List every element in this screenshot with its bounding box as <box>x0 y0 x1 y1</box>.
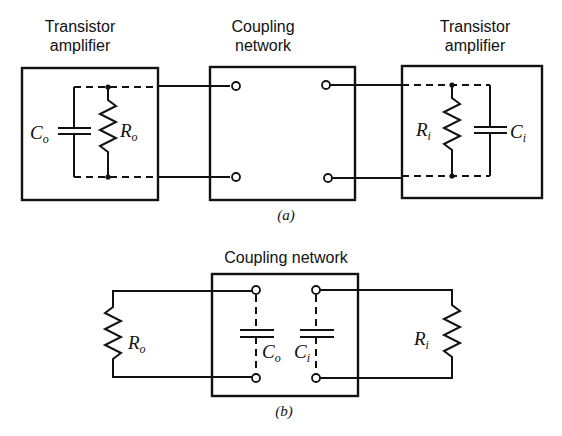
resistor-ro-label: Ro <box>119 120 138 144</box>
right-amp-title-line1: Transistor <box>440 18 511 35</box>
resistor-ro-label-b: Ro <box>127 332 146 356</box>
terminal <box>312 374 320 382</box>
coupling-title-line2: network <box>235 37 292 54</box>
coupling-title-line1: Coupling <box>231 18 294 35</box>
left-transistor-amplifier: Transistor amplifier Co Ro <box>22 18 158 200</box>
junction-dot <box>449 173 454 178</box>
caption-a: (a) <box>277 207 295 224</box>
capacitor-co-symbol <box>58 128 91 134</box>
junction-dot <box>105 174 110 179</box>
junction-dot <box>105 84 110 89</box>
capacitor-co-symbol-b <box>240 330 274 337</box>
figure-a: Transistor amplifier Co Ro Coupling netw… <box>22 18 542 224</box>
terminal <box>252 374 260 382</box>
terminal <box>252 286 260 294</box>
figure-b: Coupling network Ro Co Ci Ri (b) <box>105 249 460 420</box>
capacitor-ci-label-b: Ci <box>294 341 310 365</box>
terminal <box>322 81 330 89</box>
capacitor-ci-symbol <box>474 127 507 133</box>
caption-b: (b) <box>275 403 293 420</box>
resistor-ro-symbol <box>100 87 116 177</box>
terminal <box>232 173 240 181</box>
resistor-ri-symbol <box>444 85 460 176</box>
coupling-network-b-title: Coupling network <box>224 249 349 266</box>
junction-dot <box>449 82 454 87</box>
right-amp-title-line2: amplifier <box>445 37 506 54</box>
left-amp-title-line1: Transistor <box>45 18 116 35</box>
right-transistor-amplifier: Transistor amplifier Ri Ci <box>402 18 542 198</box>
capacitor-ci-label: Ci <box>510 121 526 145</box>
circuit-diagram: Transistor amplifier Co Ro Coupling netw… <box>0 0 562 436</box>
terminal <box>324 174 332 182</box>
resistor-ri-label-b: Ri <box>413 328 429 352</box>
terminal <box>232 82 240 90</box>
capacitor-co-label-b: Co <box>262 341 281 365</box>
coupling-network-a: Coupling network <box>210 18 355 200</box>
left-amp-title-line2: amplifier <box>50 37 111 54</box>
capacitor-ci-symbol-b <box>300 330 334 337</box>
capacitor-co-label: Co <box>30 122 49 146</box>
resistor-ri-loop <box>320 290 460 378</box>
resistor-ri-label: Ri <box>415 119 431 143</box>
terminal <box>312 286 320 294</box>
